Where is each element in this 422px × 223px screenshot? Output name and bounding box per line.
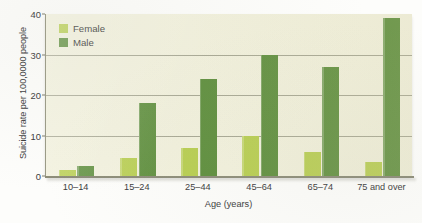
y-tick-label-20: 20 [15, 90, 41, 101]
legend-swatch-male-icon [59, 38, 68, 47]
plot-area: Female Male [45, 14, 412, 176]
gridline-30 [46, 55, 412, 56]
gridline-10 [46, 136, 412, 137]
legend-item-male: Male [59, 35, 105, 49]
bar-female-25-44 [181, 148, 198, 176]
x-tick-label-45-64: 45–64 [246, 182, 272, 192]
bar-male-75-and-over [383, 18, 400, 176]
legend-label-female: Female [73, 23, 105, 34]
x-tick-label-25-44: 25–44 [185, 182, 211, 192]
x-tick-label-10-14: 10–14 [63, 182, 89, 192]
y-tick-label-30: 30 [15, 49, 41, 60]
chart-legend: Female Male [59, 21, 105, 49]
suicide-rate-bar-chart: Suicide rate per 100,0000 people 0102030… [0, 0, 422, 223]
bar-female-65-74 [304, 152, 321, 176]
x-tick-label-75-and-over: 75 and over [357, 182, 406, 192]
legend-label-male: Male [73, 37, 94, 48]
y-tick-label-0: 0 [15, 171, 41, 182]
bar-female-75-and-over [365, 162, 382, 176]
bar-male-10-14 [77, 166, 94, 176]
x-tick-label-65-74: 65–74 [308, 182, 334, 192]
x-tick-label-15-24: 15–24 [124, 182, 150, 192]
bar-male-65-74 [322, 67, 339, 176]
bar-male-15-24 [139, 103, 156, 176]
x-axis-title: Age (years) [45, 199, 412, 209]
bar-female-15-24 [120, 158, 137, 176]
bar-male-25-44 [200, 79, 217, 176]
y-tick-label-10: 10 [15, 130, 41, 141]
y-axis-ticks: 010203040 [11, 0, 41, 223]
legend-swatch-female-icon [59, 24, 68, 33]
y-tick-label-40: 40 [15, 9, 41, 20]
gridline-20 [46, 95, 412, 96]
legend-item-female: Female [59, 21, 105, 35]
bar-female-45-64 [242, 136, 259, 177]
bar-male-45-64 [261, 55, 278, 177]
